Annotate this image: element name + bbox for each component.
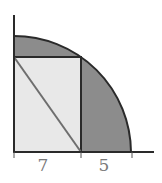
left-segment-label: 7 <box>38 155 49 175</box>
right-segment-label: 5 <box>99 155 110 175</box>
geometry-diagram: 7 5 <box>0 0 162 183</box>
